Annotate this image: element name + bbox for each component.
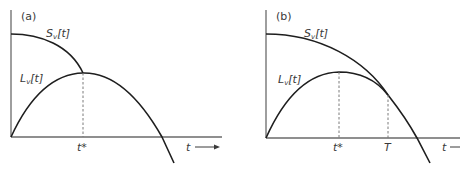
l-label-a: Lv[t] xyxy=(20,72,43,86)
l-label-b: Lv[t] xyxy=(278,73,301,87)
panel-label-a: (a) xyxy=(21,10,36,23)
tau-label-b: T xyxy=(384,141,392,154)
s-label-b: Sv[t] xyxy=(304,27,328,41)
t-axis-label-a: t xyxy=(186,141,191,154)
curve-l-a xyxy=(11,73,174,163)
panel-label-b: (b) xyxy=(276,10,292,23)
figure: (a) Sv[t] Lv[t] t* t (b) Sv[t] Lv[t] t* … xyxy=(0,0,460,174)
s-label-a: Sv[t] xyxy=(46,27,70,41)
t-axis-label-b: t xyxy=(442,141,447,154)
panel-a: (a) Sv[t] Lv[t] t* t xyxy=(11,10,222,163)
arrow-right-icon xyxy=(214,145,220,150)
tstar-label-a: t* xyxy=(77,141,87,154)
panel-b: (b) Sv[t] Lv[t] t* T t xyxy=(266,10,460,163)
tstar-label-b: t* xyxy=(333,141,343,154)
